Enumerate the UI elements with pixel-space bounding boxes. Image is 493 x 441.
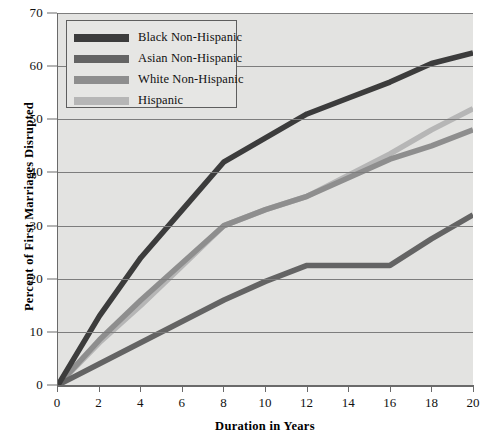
y-tick-label: 0 bbox=[36, 377, 43, 393]
y-tick-mark bbox=[47, 13, 57, 14]
x-tick-label: 2 bbox=[95, 395, 102, 411]
x-tick-mark bbox=[140, 385, 141, 392]
legend-item[interactable]: White Non-Hispanic bbox=[74, 70, 236, 89]
x-tick-mark bbox=[99, 385, 100, 392]
x-tick-label: 20 bbox=[467, 395, 480, 411]
y-axis-title: Percent of First Marriages Disrupted bbox=[22, 57, 37, 357]
legend-item[interactable]: Hispanic bbox=[74, 91, 236, 110]
legend-item-label: White Non-Hispanic bbox=[138, 72, 244, 87]
legend-swatch bbox=[74, 55, 129, 63]
gridline bbox=[58, 279, 473, 280]
legend: Black Non-HispanicAsian Non-HispanicWhit… bbox=[66, 20, 237, 108]
y-tick-label: 70 bbox=[30, 5, 43, 21]
legend-item[interactable]: Asian Non-Hispanic bbox=[74, 49, 236, 68]
legend-swatch bbox=[74, 97, 129, 105]
gridline bbox=[58, 172, 473, 173]
gridline bbox=[58, 119, 473, 120]
x-tick-label: 4 bbox=[137, 395, 144, 411]
y-tick-mark bbox=[47, 278, 57, 279]
x-tick-mark bbox=[473, 385, 474, 392]
x-tick-label: 14 bbox=[342, 395, 355, 411]
series-line bbox=[58, 215, 473, 385]
y-tick-mark bbox=[47, 225, 57, 226]
y-tick-mark bbox=[47, 119, 57, 120]
line-chart: 010203040506070 Percent of First Marriag… bbox=[0, 0, 493, 441]
x-tick-label: 18 bbox=[425, 395, 438, 411]
x-tick-label: 0 bbox=[54, 395, 61, 411]
x-tick-label: 8 bbox=[220, 395, 227, 411]
x-tick-mark bbox=[307, 385, 308, 392]
legend-item-label: Black Non-Hispanic bbox=[138, 30, 242, 45]
legend-swatch bbox=[74, 34, 129, 42]
y-tick-mark bbox=[47, 172, 57, 173]
x-tick-mark bbox=[182, 385, 183, 392]
x-tick-mark bbox=[348, 385, 349, 392]
legend-item-label: Asian Non-Hispanic bbox=[138, 51, 242, 66]
x-tick-mark bbox=[265, 385, 266, 392]
x-tick-label: 16 bbox=[383, 395, 396, 411]
legend-item[interactable]: Black Non-Hispanic bbox=[74, 28, 236, 47]
y-tick-mark bbox=[47, 331, 57, 332]
x-tick-mark bbox=[57, 385, 58, 392]
x-tick-label: 10 bbox=[259, 395, 272, 411]
legend-swatch bbox=[74, 76, 129, 84]
gridline bbox=[58, 13, 473, 14]
x-tick-label: 6 bbox=[179, 395, 186, 411]
gridline bbox=[58, 226, 473, 227]
x-tick-mark bbox=[431, 385, 432, 392]
gridline bbox=[58, 332, 473, 333]
series-line bbox=[58, 130, 473, 385]
x-axis-title: Duration in Years bbox=[57, 419, 473, 434]
y-tick-mark bbox=[47, 66, 57, 67]
x-tick-label: 12 bbox=[300, 395, 313, 411]
y-tick-mark bbox=[47, 385, 57, 386]
x-tick-mark bbox=[390, 385, 391, 392]
x-tick-mark bbox=[223, 385, 224, 392]
legend-item-label: Hispanic bbox=[138, 93, 183, 108]
